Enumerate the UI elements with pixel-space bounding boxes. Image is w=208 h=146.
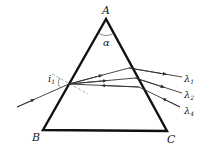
ray-label-3: λ4 <box>183 105 194 117</box>
apex-angle-arc <box>98 33 114 36</box>
vertex-label-b: B <box>31 131 40 144</box>
ray-label-1: λ1 <box>183 73 194 85</box>
incidence-angle-arc <box>58 78 61 88</box>
vertex-label-a: A <box>101 4 110 17</box>
ray-label-2: λ2 <box>183 89 194 101</box>
prism-diagram: A B C α i1 λ1 λ2 λ4 <box>0 0 208 146</box>
vertex-label-c: C <box>167 133 176 146</box>
apex-angle-label: α <box>103 37 110 48</box>
